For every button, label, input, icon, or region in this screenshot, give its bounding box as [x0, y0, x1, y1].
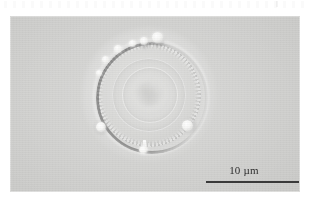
scalebar-label: 10 µm — [196, 164, 292, 177]
scalebar-line — [206, 181, 299, 183]
knob-left — [96, 70, 102, 76]
specimen-cell — [96, 42, 202, 148]
knob-bottom-left — [96, 122, 106, 132]
scan-artifact-strip — [4, 1, 304, 8]
figure-root: 10 µm — [0, 0, 310, 205]
knob-top-right — [152, 32, 163, 43]
scan-artifact-dot — [276, 1, 278, 7]
marginal-rim-highlight — [93, 39, 209, 155]
scalebar: 10 µm — [196, 164, 292, 188]
knob-bottom-right — [182, 120, 193, 131]
knob-upper-left — [114, 45, 122, 53]
knob-left-upper — [102, 56, 109, 63]
knob-top-left — [129, 40, 136, 47]
ventral-spine-tip — [139, 146, 148, 154]
micrograph-panel: 10 µm — [10, 16, 300, 192]
knob-top-center — [140, 37, 148, 45]
